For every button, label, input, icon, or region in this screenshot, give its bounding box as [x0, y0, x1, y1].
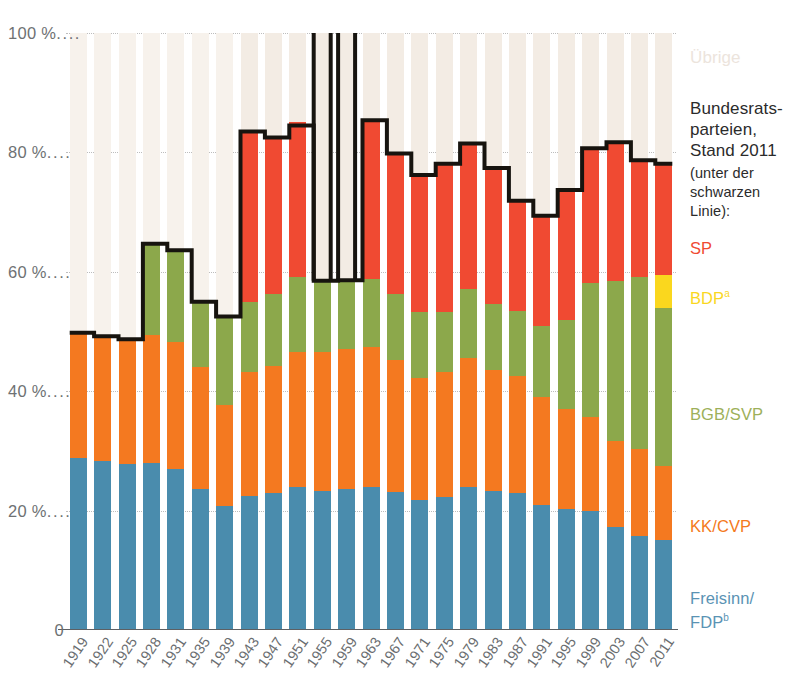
bar-segment-fdp-1931 — [167, 469, 184, 630]
legend-item-fdp: Freisinn/ FDPb — [690, 588, 754, 632]
bar-1995[interactable] — [558, 33, 575, 630]
y-tick-label-0: 0 — [8, 621, 64, 640]
bar-segment-cvp-1971 — [411, 378, 428, 500]
bar-segment-cvp-1975 — [436, 372, 453, 498]
bar-segment-fdp-1928 — [143, 463, 160, 630]
bar-slot-2003 — [603, 33, 627, 630]
bar-segment-svp-1975 — [436, 312, 453, 371]
bar-segment-sp-1975 — [436, 164, 453, 313]
y-tick-dots: .... — [47, 143, 72, 161]
bar-1939[interactable] — [216, 33, 233, 630]
bar-1928[interactable] — [143, 33, 160, 630]
bar-1999[interactable] — [582, 33, 599, 630]
bar-slot-1935 — [188, 33, 212, 630]
bar-segment-others-1983 — [485, 33, 502, 168]
y-tick-text: 60 % — [8, 262, 47, 280]
bar-slot-1919 — [66, 33, 90, 630]
bar-slot-1959 — [334, 33, 358, 630]
y-tick-label-80: 80 %.... — [8, 143, 64, 162]
bar-segment-sp-1939 — [216, 163, 233, 318]
bar-segment-others-1955 — [314, 33, 331, 119]
bar-segment-fdp-1995 — [558, 509, 575, 630]
bar-1987[interactable] — [509, 33, 526, 630]
bar-1967[interactable] — [387, 33, 404, 630]
bar-segment-cvp-1947 — [265, 366, 282, 493]
y-tick-dots: .... — [47, 262, 72, 280]
legend-item-sp: SP — [690, 238, 712, 258]
bar-slot-1947 — [261, 33, 285, 630]
bar-1991[interactable] — [533, 33, 550, 630]
bar-segment-sp-1959 — [338, 123, 355, 281]
bar-segment-sp-1971 — [411, 175, 428, 312]
bar-segment-svp-1991 — [533, 326, 550, 397]
bar-segment-sp-1951 — [289, 122, 306, 277]
bar-segment-fdp-1991 — [533, 505, 550, 630]
legend-item-bdp: BDPa — [690, 284, 730, 308]
bar-segment-others-1959 — [338, 33, 355, 123]
bar-segment-sp-1931 — [167, 79, 184, 250]
bar-2011[interactable] — [655, 33, 672, 630]
x-axis-baseline — [58, 629, 678, 630]
bar-segment-svp-1928 — [143, 244, 160, 335]
legend-item-uebrige: Übrige — [690, 48, 741, 68]
bar-segment-svp-1979 — [460, 289, 477, 358]
bar-slot-1931 — [164, 33, 188, 630]
bar-1935[interactable] — [192, 33, 209, 630]
bar-1979[interactable] — [460, 33, 477, 630]
bar-segment-sp-1995 — [558, 190, 575, 320]
bar-slot-2007 — [627, 33, 651, 630]
bar-segment-fdp-1922 — [94, 461, 111, 630]
bar-segment-cvp-1999 — [582, 417, 599, 511]
bar-1955[interactable] — [314, 33, 331, 630]
bar-1931[interactable] — [167, 33, 184, 630]
bar-segment-fdp-1987 — [509, 493, 526, 630]
bar-1947[interactable] — [265, 33, 282, 630]
bar-1983[interactable] — [485, 33, 502, 630]
bar-slot-1951 — [286, 33, 310, 630]
bar-2007[interactable] — [631, 33, 648, 630]
bar-segment-svp-1955 — [314, 280, 331, 352]
bar-segment-sp-1983 — [485, 168, 502, 304]
bar-segment-others-2011 — [655, 33, 672, 164]
legend-label-svp: BGB/SVP — [690, 405, 763, 423]
bar-segment-fdp-1919 — [70, 458, 87, 630]
y-tick-text: 100 % — [8, 24, 56, 42]
bar-1971[interactable] — [411, 33, 428, 630]
bar-2003[interactable] — [607, 33, 624, 630]
bar-segment-others-1935 — [192, 33, 209, 134]
bar-segment-fdp-1925 — [119, 464, 136, 630]
bar-1975[interactable] — [436, 33, 453, 630]
bar-segment-others-1925 — [119, 33, 136, 185]
bar-1963[interactable] — [363, 33, 380, 630]
bar-1922[interactable] — [94, 33, 111, 630]
bar-slot-2011 — [652, 33, 676, 630]
bar-segment-fdp-1951 — [289, 487, 306, 630]
bar-segment-fdp-1935 — [192, 489, 209, 630]
bar-slot-1925 — [115, 33, 139, 630]
bar-segment-fdp-1975 — [436, 497, 453, 630]
bar-segment-cvp-1995 — [558, 409, 575, 509]
y-tick-dots: .... — [56, 24, 81, 42]
bar-1943[interactable] — [241, 33, 258, 630]
bar-segment-sp-1919 — [70, 192, 87, 332]
bar-segment-cvp-2011 — [655, 466, 672, 539]
bar-1925[interactable] — [119, 33, 136, 630]
bar-segment-svp-1971 — [411, 312, 428, 378]
bar-slot-1983 — [481, 33, 505, 630]
legend-item-svp: BGB/SVP — [690, 404, 763, 424]
bar-segment-others-1979 — [460, 33, 477, 143]
bar-slot-1939 — [212, 33, 236, 630]
bar-1919[interactable] — [70, 33, 87, 630]
bar-segment-others-1951 — [289, 33, 306, 122]
bar-segment-sp-1991 — [533, 216, 550, 326]
x-axis-labels: 1919192219251928193119351939194319471951… — [66, 632, 676, 692]
bar-segment-svp-1943 — [241, 302, 258, 371]
bar-1959[interactable] — [338, 33, 355, 630]
y-tick-text: 0 — [55, 621, 64, 639]
bar-slot-1971 — [408, 33, 432, 630]
bar-slot-1928 — [139, 33, 163, 630]
y-tick-text: 80 % — [8, 143, 47, 161]
bar-slot-1995 — [554, 33, 578, 630]
bar-slot-1922 — [90, 33, 114, 630]
bar-1951[interactable] — [289, 33, 306, 630]
